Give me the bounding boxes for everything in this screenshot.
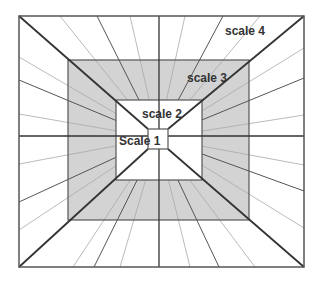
scale-2-label: scale 2 (142, 108, 182, 120)
scale-3-label: scale 3 (187, 72, 227, 84)
scale-4-label: scale 4 (225, 25, 265, 37)
scales-diagram (0, 0, 321, 281)
scale-1-label: Scale 1 (119, 135, 160, 147)
